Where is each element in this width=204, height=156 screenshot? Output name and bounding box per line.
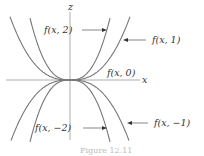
x-axis-label: x [142,74,148,85]
label-f-x-2: f(x, 2) [43,24,73,35]
diagram: z x f(x, 2) f(x, 1) f(x, 0) f(x, −1) f(x… [0,0,204,156]
label-f-x-0: f(x, 0) [106,67,136,78]
arrowhead-f-x-1 [123,38,128,42]
arrowhead-f-x-neg1 [127,121,132,125]
diagram-canvas: z x f(x, 2) f(x, 1) f(x, 0) f(x, −1) f(x… [0,0,204,156]
label-f-x-neg1: f(x, −1) [153,117,191,128]
figure-caption: Figure 12.11 [80,146,132,155]
z-axis-label: z [67,1,74,12]
label-f-x-1: f(x, 1) [151,34,181,45]
label-f-x-neg2: f(x, −2) [34,122,72,133]
